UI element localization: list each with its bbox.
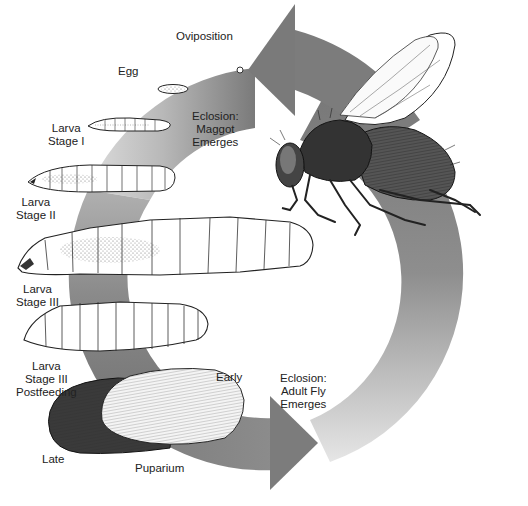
larva-stage-3-postfeeding-illustration: [24, 302, 208, 351]
egg-illustration: [158, 85, 188, 94]
label-larva-stage-1: Larva Stage I: [48, 122, 84, 148]
label-puparium-early: Early: [216, 371, 242, 384]
egg-small-icon: [237, 67, 243, 73]
label-oviposition: Oviposition: [176, 30, 233, 43]
oviposition-arrowhead: [248, 4, 295, 116]
diagram-canvas: [0, 0, 528, 506]
label-egg: Egg: [118, 65, 138, 78]
label-eclosion-maggot: Eclosion: Maggot Emerges: [192, 110, 239, 149]
label-larva-stage-3-postfeeding: Larva Stage III Postfeeding: [16, 360, 77, 399]
label-puparium: Puparium: [135, 462, 184, 475]
larva-stage-1-illustration: [88, 118, 170, 131]
larva-stage-2-illustration: [28, 165, 175, 192]
label-puparium-late: Late: [42, 453, 64, 466]
fly-life-cycle-diagram: Oviposition Egg Eclosion: Maggot Emerges…: [0, 0, 528, 506]
label-larva-stage-2: Larva Stage II: [16, 196, 56, 222]
label-larva-stage-3: Larva Stage III: [16, 283, 59, 309]
label-eclosion-adult: Eclosion: Adult Fly Emerges: [280, 372, 327, 411]
larva-stage-3-illustration: [18, 217, 313, 275]
